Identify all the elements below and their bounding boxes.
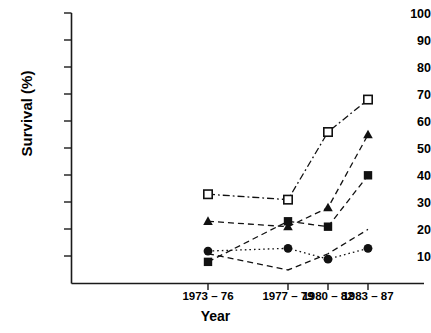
y-axis-ticks bbox=[64, 13, 72, 256]
data-point-open-square-2 bbox=[324, 128, 332, 136]
data-point-triangle-0 bbox=[203, 216, 213, 225]
data-point-triangle-3 bbox=[363, 130, 373, 139]
marker-layer bbox=[203, 95, 373, 266]
data-point-circle-1 bbox=[284, 244, 293, 253]
data-point-open-square-3 bbox=[364, 95, 372, 103]
data-point-circle-2 bbox=[324, 255, 333, 264]
data-point-filled-square-2 bbox=[324, 222, 332, 230]
data-point-circle-3 bbox=[364, 244, 373, 253]
series-line-open-square bbox=[208, 100, 368, 200]
plot-area bbox=[0, 0, 431, 333]
data-point-filled-square-3 bbox=[364, 171, 372, 179]
survival-line-chart: Survival (%) 100 90 80 70 60 50 40 30 20… bbox=[0, 0, 431, 333]
x-axis-ticks bbox=[208, 284, 368, 291]
axis-lines bbox=[72, 13, 425, 284]
data-point-open-square-0 bbox=[204, 190, 212, 198]
data-point-triangle-2 bbox=[323, 203, 333, 212]
data-point-filled-square-0 bbox=[204, 258, 212, 266]
series-line-triangle bbox=[208, 135, 368, 227]
data-point-filled-square-1 bbox=[284, 217, 292, 225]
data-point-open-square-1 bbox=[284, 195, 292, 203]
data-point-circle-0 bbox=[204, 247, 213, 256]
